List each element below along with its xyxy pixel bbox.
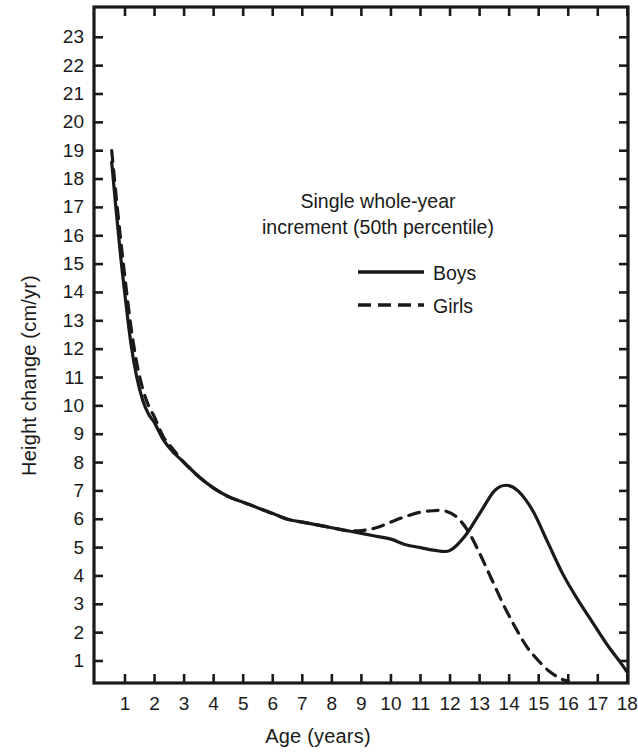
legend-label-girls: Girls xyxy=(433,295,473,318)
legend-line-samples xyxy=(358,272,424,305)
y-tick-label: 15 xyxy=(36,253,84,275)
x-tick-label: 18 xyxy=(617,693,638,715)
x-tick-label: 4 xyxy=(208,693,219,715)
x-tick-label: 3 xyxy=(179,693,190,715)
y-tick-label: 22 xyxy=(36,55,84,77)
plot-frame xyxy=(94,7,628,683)
x-tick-label: 2 xyxy=(149,693,160,715)
x-tick-label: 13 xyxy=(469,693,490,715)
y-tick-label: 7 xyxy=(36,480,84,502)
y-tick-label: 10 xyxy=(36,395,84,417)
x-tick-label: 8 xyxy=(327,693,338,715)
y-tick-label: 1 xyxy=(36,650,84,672)
legend-label-boys: Boys xyxy=(433,262,476,285)
x-tick-label: 5 xyxy=(238,693,249,715)
y-tick-label: 5 xyxy=(36,537,84,559)
y-tick-label: 12 xyxy=(36,338,84,360)
y-tick-label: 3 xyxy=(36,593,84,615)
y-tick-label: 13 xyxy=(36,310,84,332)
legend-caption: Single whole-year increment (50th percen… xyxy=(228,188,528,241)
y-tick-label: 19 xyxy=(36,140,84,162)
x-tick-label: 17 xyxy=(587,693,608,715)
x-tick-label: 11 xyxy=(411,693,431,715)
x-tick-label: 15 xyxy=(528,693,549,715)
y-tick-label: 4 xyxy=(36,565,84,587)
x-tick-label: 9 xyxy=(356,693,367,715)
x-axis-title: Age (years) xyxy=(0,725,636,748)
y-tick-label: 9 xyxy=(36,423,84,445)
y-tick-label: 2 xyxy=(36,622,84,644)
x-tick-label: 16 xyxy=(558,693,579,715)
y-tick-label: 17 xyxy=(36,196,84,218)
y-tick-label: 8 xyxy=(36,452,84,474)
axis-ticks xyxy=(94,7,628,683)
legend-caption-line-1: Single whole-year xyxy=(228,188,528,214)
legend-caption-line-2: increment (50th percentile) xyxy=(228,214,528,240)
x-tick-label: 7 xyxy=(297,693,308,715)
y-tick-label: 6 xyxy=(36,508,84,530)
x-tick-label: 6 xyxy=(267,693,278,715)
x-tick-label: 12 xyxy=(439,693,460,715)
x-tick-label: 14 xyxy=(499,693,520,715)
y-tick-label: 18 xyxy=(36,168,84,190)
y-tick-label: 23 xyxy=(36,26,84,48)
y-tick-label: 11 xyxy=(36,367,84,389)
y-tick-label: 14 xyxy=(36,281,84,303)
x-tick-label: 10 xyxy=(380,693,401,715)
y-tick-label: 21 xyxy=(36,83,84,105)
y-tick-label: 20 xyxy=(36,111,84,133)
x-tick-label: 1 xyxy=(120,693,131,715)
y-tick-label: 16 xyxy=(36,225,84,247)
